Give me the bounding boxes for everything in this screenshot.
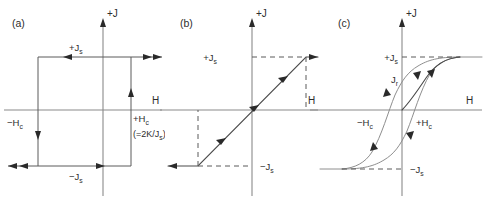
panel-c-descending-branch <box>342 57 460 169</box>
panel-c-arrow-ascending-lower <box>406 131 414 140</box>
panel-b-arrow-lower <box>216 138 226 145</box>
panel-b-vertical-axis-label: +J <box>256 8 267 19</box>
panel-c-initial-magnetisation-curve <box>402 57 460 110</box>
panel-a-label-negative-coercivity: −Hc <box>7 117 23 130</box>
panel-a-vertical-axis-arrow <box>100 18 106 27</box>
panel-b-arrow-left-tail <box>168 163 177 169</box>
panel-c-horizontal-axis-label: H <box>466 95 473 106</box>
panel-c-arrow-ascending-upper <box>413 71 421 80</box>
panel-a-arrow-top-right-inner <box>143 54 152 60</box>
panel-c-tag: (c) <box>338 17 350 29</box>
panel-a-tag: (a) <box>12 17 25 29</box>
panel-a-arrow-bottom-left-outer <box>8 163 17 169</box>
panel-a-arrow-bottom-right <box>96 163 105 169</box>
panel-a-label-negative-saturation: −Js <box>69 171 83 184</box>
panel-b-label-negative-saturation: −Js <box>260 161 274 174</box>
panel-b-vertical-axis-arrow <box>249 18 255 27</box>
panel-c-label-negative-saturation: −Js <box>410 164 424 177</box>
panel-c-label-positive-coercivity: +Hc <box>416 117 432 130</box>
panel-a-arrow-bottom-left-inner <box>19 163 28 169</box>
panel-a-arrow-top-left <box>63 54 72 60</box>
panel-c-vertical-axis-label: +J <box>406 8 417 19</box>
hysteresis-figure: (a) +J H +Js −Js −Hc +Hc <box>0 0 490 213</box>
panel-a-square-loop: (a) +J H +Js −Js −Hc +Hc <box>0 0 165 213</box>
panel-c-hysteresis: (c) +J H +Js Jr −Js −Hc +Hc <box>310 0 490 213</box>
panel-c-ascending-branch <box>342 57 460 169</box>
panel-c-vertical-axis-arrow <box>399 18 405 27</box>
panel-b-arrow-upper <box>278 76 288 83</box>
panel-b-anhysteretic-curve <box>168 57 318 166</box>
panel-b-label-positive-saturation: +Js <box>203 52 217 65</box>
panel-a-label-positive-saturation: +Js <box>69 42 83 55</box>
panel-b-arrow-mid <box>249 105 259 112</box>
panel-c-label-positive-saturation: +Js <box>384 52 398 65</box>
panel-b-tag: (b) <box>180 17 193 29</box>
panel-a-label-positive-coercivity: +Hc <box>133 113 149 126</box>
panel-c-arrow-descending-upper <box>383 88 391 97</box>
panel-a-arrow-right-up <box>128 88 134 97</box>
panel-c-label-remanence: Jr <box>391 74 399 87</box>
panel-b-anhysteretic: (b) +J H +Js −Js <box>160 0 320 213</box>
panel-a-vertical-axis-label: +J <box>107 8 118 19</box>
panel-a-arrow-left-down <box>35 131 41 140</box>
panel-c-label-negative-coercivity: −Hc <box>357 117 373 130</box>
panel-a-horizontal-axis-label: H <box>152 95 159 106</box>
